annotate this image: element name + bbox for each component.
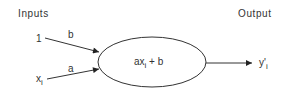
output-label: y'i	[259, 57, 268, 71]
weight-b-label: b	[68, 29, 74, 40]
input-x-label: xi	[36, 73, 43, 87]
inputs-header: Inputs	[18, 8, 49, 19]
output-header: Output	[238, 8, 272, 19]
weight-a-label: a	[68, 63, 74, 74]
input-one-arrow	[45, 38, 99, 52]
neuron-diagram: Inputs Output 1 b xi a axi + b y'i	[0, 0, 292, 90]
input-one-label: 1	[36, 33, 42, 44]
node-expression: axi + b	[134, 56, 164, 70]
